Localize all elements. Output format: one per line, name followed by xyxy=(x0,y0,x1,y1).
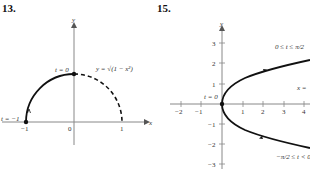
x-axis-label: x xyxy=(148,119,153,127)
y-axis-label: y xyxy=(71,16,76,24)
lower-curve xyxy=(222,104,310,148)
x-tick: 1 xyxy=(241,108,245,116)
point-t0 xyxy=(72,72,76,76)
y-tick: 2 xyxy=(212,60,216,68)
x-tick: −1 xyxy=(195,108,203,116)
point-t-minus-1 xyxy=(24,120,28,124)
y-axis-label: y xyxy=(219,20,224,28)
dashed-arc xyxy=(74,74,122,122)
solid-arc xyxy=(26,74,74,122)
figure-13-plot: y x t = 0 y = √(1 − x²) t = −1 −1 0 1 xyxy=(1,16,153,145)
lower-range-label: −π/2 ≤ t < 0 xyxy=(276,153,310,161)
label-t0: t = 0 xyxy=(55,66,69,74)
upper-curve xyxy=(222,60,310,104)
tick-1: 1 xyxy=(120,125,124,133)
tick-origin: 0 xyxy=(68,125,72,133)
point-t0 xyxy=(220,102,224,106)
y-tick: −3 xyxy=(208,161,216,169)
y-tick: 3 xyxy=(212,40,216,48)
x-tick: 3 xyxy=(282,108,286,116)
curve-label: y = √(1 − x²) xyxy=(95,65,133,73)
label-t-minus-1: t = −1 xyxy=(1,115,19,123)
tick-minus-1: −1 xyxy=(21,125,29,133)
label-t0: t = 0 xyxy=(204,93,218,101)
right-label: x = xyxy=(296,84,307,92)
x-tick: 4 xyxy=(302,108,306,116)
y-tick: 1 xyxy=(212,81,216,89)
figure-15-plot: y −2 −1 1 2 3 4 3 2 1 −1 −2 −3 t = 0 0 ≤… xyxy=(170,20,310,169)
figures-canvas: y x t = 0 y = √(1 − x²) t = −1 −1 0 1 y … xyxy=(0,0,310,169)
x-tick: 2 xyxy=(261,108,265,116)
y-tick: −2 xyxy=(208,141,216,149)
x-tick: −2 xyxy=(175,108,183,116)
y-tick: −1 xyxy=(208,121,216,129)
upper-range-label: 0 ≤ t ≤ π/2 xyxy=(275,43,305,51)
